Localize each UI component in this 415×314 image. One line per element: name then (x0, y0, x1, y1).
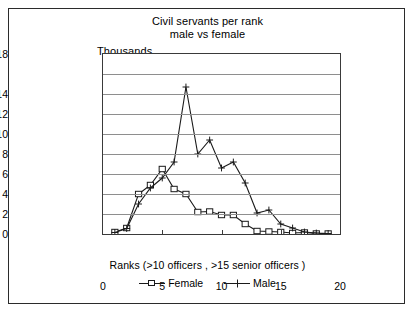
y-tick-label: 0 (0, 228, 8, 240)
data-point-marker (230, 159, 237, 166)
series-line (115, 169, 328, 234)
y-tick-label: 18 (0, 48, 8, 60)
legend-marker-plus-icon (224, 278, 250, 288)
data-point-marker (254, 228, 260, 233)
gridline (103, 174, 340, 175)
chart-title-line-1: Civil servants per rank (9, 15, 406, 28)
data-point-marker (218, 165, 225, 172)
y-tick-label: 12 (0, 108, 8, 120)
x-tick-mark (281, 230, 282, 234)
chart-card: Civil servants per rank male vs female T… (8, 8, 405, 304)
gridline (103, 214, 340, 215)
data-point-marker (242, 180, 249, 187)
y-tick-label: 2 (0, 208, 8, 220)
legend-label-male: Male (253, 277, 276, 289)
gridline (103, 114, 340, 115)
series-line (115, 87, 328, 234)
data-point-marker (183, 84, 190, 91)
data-point-marker (254, 210, 261, 217)
gridline (103, 194, 340, 195)
plot-area: 0246810121418 05101520 (102, 53, 341, 235)
gridline (103, 74, 340, 75)
data-point-marker (171, 186, 177, 191)
x-tick-mark (162, 230, 163, 234)
gridline (103, 94, 340, 95)
data-point-marker (266, 229, 272, 234)
data-series-layer (103, 54, 340, 234)
chart-title-line-2: male vs female (9, 28, 406, 41)
y-tick-label: 8 (0, 148, 8, 160)
series-female (112, 166, 332, 234)
x-tick-mark (222, 230, 223, 234)
gridline (103, 154, 340, 155)
data-point-marker (242, 221, 248, 226)
chart-legend: Female Male (9, 275, 406, 289)
legend-item-male: Male (224, 276, 276, 289)
data-point-marker (159, 166, 165, 171)
y-tick-label: 6 (0, 168, 8, 180)
y-tick-label: 4 (0, 188, 8, 200)
legend-marker-open-square-icon (139, 278, 165, 288)
series-male (111, 84, 331, 234)
x-axis-label: Ranks (>10 officers , >15 senior officer… (9, 259, 406, 271)
y-tick-label: 14 (0, 88, 8, 100)
legend-item-female: Female (139, 276, 203, 289)
legend-label-female: Female (168, 277, 203, 289)
chart-title: Civil servants per rank male vs female (9, 15, 406, 40)
gridline (103, 134, 340, 135)
y-tick-label: 10 (0, 128, 8, 140)
